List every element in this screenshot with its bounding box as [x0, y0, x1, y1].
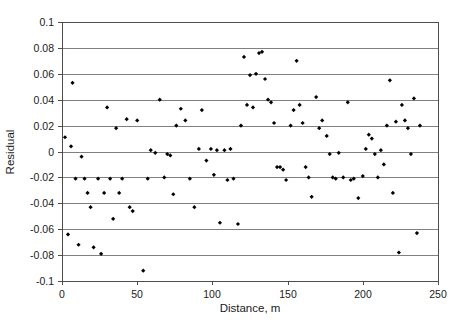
y-tick-label: -0.08	[30, 249, 54, 261]
chart-canvas: -0.1-0.08-0.06-0.04-0.0200.020.040.060.0…	[0, 0, 464, 323]
y-axis-title: Residual	[4, 130, 16, 175]
x-tick-label: 200	[354, 288, 372, 300]
y-tick-label: 0.1	[39, 16, 54, 28]
y-tick-label: 0.02	[34, 120, 55, 132]
y-tick-label: 0	[48, 146, 54, 158]
x-tick-label: 100	[203, 288, 221, 300]
x-tick-label: 250	[429, 288, 447, 300]
scatter-chart: -0.1-0.08-0.06-0.04-0.0200.020.040.060.0…	[0, 0, 464, 323]
x-axis-title: Distance, m	[220, 302, 281, 314]
y-axis-tick-labels: -0.1-0.08-0.06-0.04-0.0200.020.040.060.0…	[30, 16, 54, 287]
y-tick-label: 0.04	[34, 94, 55, 106]
y-tick-label: -0.06	[30, 223, 54, 235]
x-tick-label: 0	[59, 288, 65, 300]
x-tick-label: 150	[279, 288, 297, 300]
x-tick-label: 50	[131, 288, 143, 300]
x-axis-tick-labels: 050100150200250	[59, 288, 447, 300]
y-tick-label: -0.1	[36, 275, 54, 287]
y-tick-label: 0.08	[34, 42, 55, 54]
y-tick-label: 0.06	[34, 68, 55, 80]
y-tick-label: -0.02	[30, 171, 54, 183]
y-tick-label: -0.04	[30, 197, 54, 209]
